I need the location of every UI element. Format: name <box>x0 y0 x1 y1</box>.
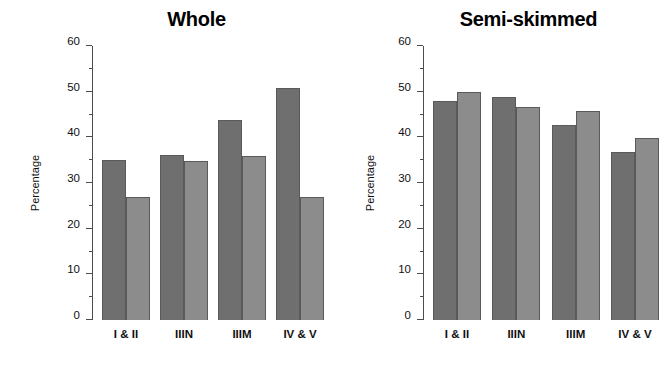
bar <box>611 152 635 320</box>
y-tick-label: 20 <box>67 218 80 230</box>
y-tick-minor <box>420 296 423 297</box>
y-axis-label-semi-skimmed: Percentage <box>361 0 379 365</box>
bar <box>433 101 457 320</box>
bar <box>457 92 481 320</box>
y-tick-major <box>86 91 92 92</box>
bar <box>102 160 126 320</box>
panel-semi-skimmed: Semi-skimmed Percentage 0102030405060 I … <box>335 0 670 365</box>
y-tick-major <box>417 182 423 183</box>
y-tick-minor <box>89 114 92 115</box>
y-tick-minor <box>89 68 92 69</box>
bar-group: IIIM <box>218 46 266 320</box>
x-axis-category-label: IIIN <box>507 328 525 340</box>
x-axis-category-label: IV & V <box>618 328 651 340</box>
y-tick-label: 30 <box>67 172 80 184</box>
y-tick-label: 0 <box>74 309 80 321</box>
y-tick-label: 10 <box>398 263 411 275</box>
y-tick-major <box>86 182 92 183</box>
plot-area-whole: 0102030405060 I & IIIIINIIIMIV & V <box>100 46 326 320</box>
y-tick-label: 50 <box>67 81 80 93</box>
bar <box>576 111 600 320</box>
x-axis-category-label: I & II <box>445 328 469 340</box>
y-axis-ticks <box>92 46 93 320</box>
y-axis-label-text: Percentage <box>29 154 41 210</box>
panel-title-whole: Whole <box>0 8 335 31</box>
bar <box>126 197 150 320</box>
y-tick-label: 60 <box>67 35 80 47</box>
bar <box>492 97 516 320</box>
y-tick-minor <box>89 205 92 206</box>
bar-group: I & II <box>102 46 150 320</box>
y-tick-minor <box>420 68 423 69</box>
y-tick-minor <box>420 205 423 206</box>
y-tick-label: 0 <box>405 309 411 321</box>
y-tick-major <box>417 319 423 320</box>
x-axis-category-label: IV & V <box>283 328 316 340</box>
bar <box>184 161 208 320</box>
bar <box>160 155 184 320</box>
y-axis-ticks <box>423 46 424 320</box>
plot-area-semi-skimmed: 0102030405060 I & IIIIINIIIMIV & V <box>431 46 661 320</box>
y-tick-minor <box>89 251 92 252</box>
y-tick-minor <box>420 159 423 160</box>
y-tick-minor <box>420 251 423 252</box>
y-tick-major <box>417 228 423 229</box>
y-tick-major <box>417 91 423 92</box>
y-tick-label: 10 <box>67 263 80 275</box>
y-axis-label-whole: Percentage <box>26 0 44 365</box>
y-axis-label-text: Percentage <box>364 154 376 210</box>
bar <box>635 138 659 320</box>
y-tick-label: 60 <box>398 35 411 47</box>
y-tick-major <box>417 273 423 274</box>
bar-group: IIIN <box>160 46 208 320</box>
bar-group: I & II <box>433 46 481 320</box>
bar <box>276 88 300 320</box>
y-tick-major <box>86 319 92 320</box>
x-axis-category-label: IIIM <box>232 328 251 340</box>
x-axis-category-label: IIIN <box>175 328 193 340</box>
bar <box>218 120 242 320</box>
y-tick-label: 40 <box>398 126 411 138</box>
y-tick-major <box>417 45 423 46</box>
bar-group: IV & V <box>276 46 324 320</box>
y-tick-label: 40 <box>67 126 80 138</box>
y-tick-major <box>86 228 92 229</box>
panel-whole: Whole Percentage 0102030405060 I & IIIII… <box>0 0 335 365</box>
y-tick-minor <box>89 159 92 160</box>
figure-two-panel-bar-charts: Whole Percentage 0102030405060 I & IIIII… <box>0 0 670 365</box>
bar-group: IV & V <box>611 46 659 320</box>
bar <box>552 125 576 320</box>
y-tick-major <box>86 45 92 46</box>
y-tick-label: 20 <box>398 218 411 230</box>
bar <box>242 156 266 320</box>
y-tick-major <box>86 273 92 274</box>
bar <box>300 197 324 320</box>
y-tick-major <box>417 136 423 137</box>
y-tick-major <box>86 136 92 137</box>
x-axis-category-label: I & II <box>114 328 138 340</box>
y-tick-minor <box>420 114 423 115</box>
panel-title-semi-skimmed: Semi-skimmed <box>335 8 670 31</box>
bar-group: IIIN <box>492 46 540 320</box>
x-axis-category-label: IIIM <box>566 328 585 340</box>
bar <box>516 107 540 320</box>
y-tick-label: 50 <box>398 81 411 93</box>
y-tick-label: 30 <box>398 172 411 184</box>
bar-groups: I & IIIIINIIIMIV & V <box>100 46 326 320</box>
bar-group: IIIM <box>552 46 600 320</box>
bar-groups: I & IIIIINIIIMIV & V <box>431 46 661 320</box>
y-tick-minor <box>89 296 92 297</box>
